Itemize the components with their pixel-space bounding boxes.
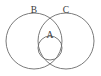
set-label-b: B (31, 5, 37, 15)
set-circle-c (38, 13, 94, 69)
set-circle-b (6, 13, 62, 69)
set-label-c: C (63, 5, 69, 15)
venn-diagram-svg: B C A (0, 0, 101, 76)
venn-diagram-canvas: B C A (0, 0, 101, 76)
set-label-a: A (47, 30, 54, 40)
